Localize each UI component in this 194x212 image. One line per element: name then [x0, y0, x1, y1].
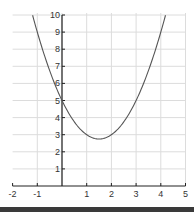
y-tick-label: 5: [55, 96, 60, 106]
x-tick-label: 4: [158, 189, 163, 199]
x-tick-label: 5: [183, 189, 188, 199]
parabola-curve: [33, 15, 166, 139]
x-tick-label: -1: [33, 189, 41, 199]
y-tick-label: 8: [55, 44, 60, 54]
y-tick-label: 4: [55, 113, 60, 123]
y-tick-label: 7: [55, 61, 60, 71]
y-tick-label: 3: [55, 130, 60, 140]
x-tick-label: 1: [84, 189, 89, 199]
y-tick-label: 9: [55, 27, 60, 37]
x-tick-label: -2: [9, 189, 17, 199]
y-tick-label: 1: [55, 164, 60, 174]
x-tick-label: 3: [134, 189, 139, 199]
y-tick-label: 10: [50, 10, 60, 20]
y-tick-label: 2: [55, 147, 60, 157]
grid-lines: [13, 13, 186, 186]
bottom-border-bar: [0, 207, 194, 212]
x-tick-label: 2: [109, 189, 114, 199]
function-plot: -2-11234512345678910: [0, 0, 194, 212]
